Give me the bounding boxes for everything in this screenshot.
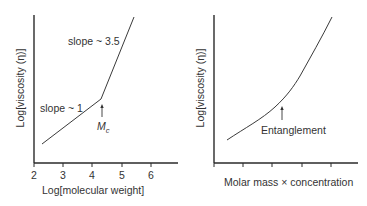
right-y-axis-label: Log[viscosity (η)] [194,49,206,128]
left-x-axis-label: Log[molecular weight] [42,184,144,196]
figure: 2 3 4 5 6 Log[molecular weight] Log[visc… [0,0,367,206]
slope-low-label: slope ~ 1 [40,102,83,114]
right-chart: Molar mass × concentration Log[viscosity… [194,15,358,188]
right-x-axis-label: Molar mass × concentration [224,176,353,188]
left-y-axis-label: Log[viscosity (η)] [14,49,26,128]
slope-high-label: slope ~ 3.5 [68,35,120,47]
left-tick-label: 6 [148,169,154,181]
right-viscosity-curve [227,17,332,140]
left-tick-label: 5 [119,169,125,181]
mc-arrow-head [100,104,103,108]
mc-label: Mc [97,120,110,135]
left-tick-label: 4 [89,169,95,181]
left-chart: 2 3 4 5 6 Log[molecular weight] Log[visc… [14,15,178,196]
left-tick-label: 3 [60,169,66,181]
left-tick-label: 2 [31,169,37,181]
entanglement-arrow-head [280,106,283,110]
entanglement-label: Entanglement [261,124,326,136]
